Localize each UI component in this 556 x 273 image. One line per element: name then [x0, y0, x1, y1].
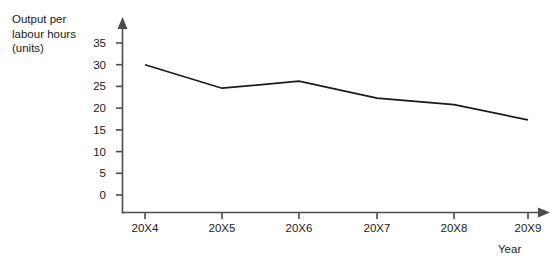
data-series-line — [145, 65, 528, 120]
y-axis-arrow-icon — [118, 17, 128, 29]
line-chart: Output per labour hours (units) Year 35 … — [0, 0, 556, 273]
x-axis-arrow-icon — [538, 208, 550, 218]
x-axis — [123, 208, 551, 220]
y-axis — [116, 17, 128, 214]
chart-plot-area — [0, 0, 556, 273]
